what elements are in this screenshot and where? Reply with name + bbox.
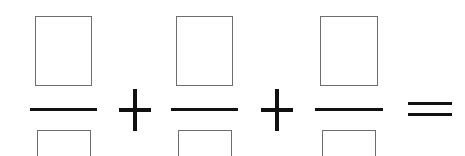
fraction-equation-canvas: + + = <box>0 0 465 156</box>
plus-operator-symbol-1: + <box>119 89 120 90</box>
equals-top-stroke <box>408 102 452 105</box>
plus-vertical-stroke-2 <box>275 89 279 131</box>
numerator-blank-box-2[interactable] <box>176 16 233 86</box>
numerator-value-2 <box>177 17 178 18</box>
plus-operator-icon-1: + <box>119 89 151 131</box>
fraction-term-3 <box>315 0 383 156</box>
denominator-blank-box-1[interactable] <box>37 130 91 156</box>
numerator-blank-box-3[interactable] <box>320 16 378 86</box>
denominator-value-2 <box>179 131 180 132</box>
fraction-term-1 <box>30 0 97 156</box>
equals-bottom-stroke <box>408 113 452 116</box>
denominator-blank-box-3[interactable] <box>322 130 376 156</box>
numerator-blank-box-1[interactable] <box>35 16 92 86</box>
numerator-value-3 <box>321 17 322 18</box>
fraction-bar-2 <box>171 108 238 111</box>
numerator-value-1 <box>36 17 37 18</box>
denominator-value-1 <box>38 131 39 132</box>
plus-vertical-stroke-1 <box>133 89 137 131</box>
plus-operator-symbol-2: + <box>261 89 262 90</box>
fraction-bar-1 <box>30 108 97 111</box>
equals-operator-icon: = <box>408 102 452 118</box>
plus-operator-icon-2: + <box>261 89 293 131</box>
fraction-bar-3 <box>315 108 383 111</box>
denominator-value-3 <box>323 131 324 132</box>
denominator-blank-box-2[interactable] <box>178 130 232 156</box>
fraction-term-2 <box>171 0 238 156</box>
